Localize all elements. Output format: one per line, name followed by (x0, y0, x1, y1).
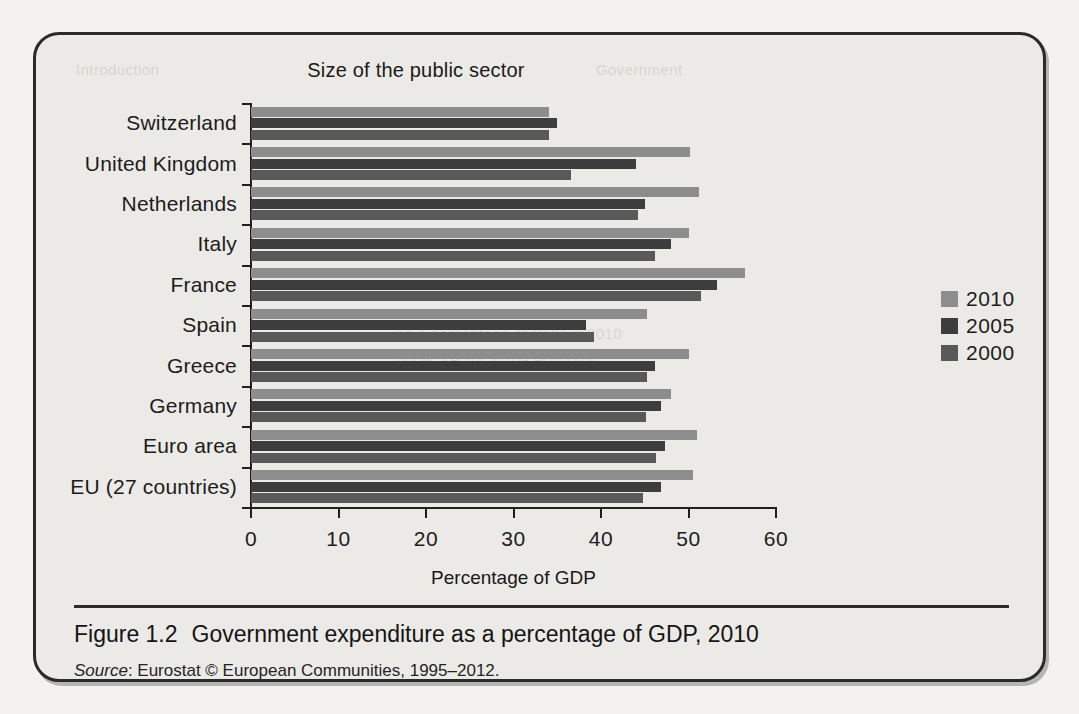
bar-group: Greece (251, 345, 776, 385)
x-tick (425, 508, 427, 518)
y-category-label: Spain (182, 313, 237, 337)
y-tick (242, 507, 251, 509)
y-tick (242, 143, 251, 145)
plot-region: 0102030405060 SwitzerlandUnited KingdomN… (251, 103, 776, 507)
figure-caption-label: Figure 1.2 (74, 621, 178, 647)
bar-2000 (251, 412, 646, 422)
bar-group: Euro area (251, 426, 776, 466)
bar-2010 (251, 187, 699, 197)
bar-2005 (251, 280, 717, 290)
legend-item: 2000 (941, 341, 1015, 365)
y-tick (242, 103, 251, 105)
y-tick (242, 386, 251, 388)
bar-2000 (251, 170, 571, 180)
bar-2010 (251, 228, 689, 238)
figure-source-label: Source (74, 661, 128, 680)
legend-item: 2010 (941, 287, 1015, 311)
bar-group: France (251, 265, 776, 305)
y-category-label: Netherlands (122, 192, 237, 216)
x-tick-label: 60 (764, 527, 788, 551)
legend-label: 2000 (966, 341, 1015, 365)
bar-group: United Kingdom (251, 143, 776, 183)
x-tick (338, 508, 340, 518)
legend-swatch-icon (941, 291, 958, 307)
bar-2005 (251, 482, 661, 492)
bar-2000 (251, 251, 655, 261)
y-category-label: France (170, 273, 237, 297)
bar-2005 (251, 441, 665, 451)
chart-area: Size of the public sector 0102030405060 … (36, 35, 1043, 595)
bar-2010 (251, 107, 549, 117)
bar-group: Switzerland (251, 103, 776, 143)
bar-2010 (251, 430, 697, 440)
chart-title: Size of the public sector (36, 59, 796, 82)
x-tick-label: 50 (676, 527, 700, 551)
x-tick (775, 508, 777, 518)
legend-swatch-icon (941, 345, 958, 361)
y-category-label: EU (27 countries) (70, 475, 237, 499)
bar-group: EU (27 countries) (251, 467, 776, 507)
y-category-label: United Kingdom (85, 152, 237, 176)
bar-group: Germany (251, 386, 776, 426)
bar-2005 (251, 159, 636, 169)
bar-2000 (251, 210, 638, 220)
x-tick-label: 30 (501, 527, 525, 551)
bar-2005 (251, 361, 655, 371)
bar-2010 (251, 309, 647, 319)
y-category-label: Greece (167, 354, 237, 378)
figure-caption: Figure 1.2Government expenditure as a pe… (74, 621, 1014, 648)
bar-2000 (251, 372, 647, 382)
bar-group: Netherlands (251, 184, 776, 224)
caption-divider (74, 605, 1009, 608)
x-tick (513, 508, 515, 518)
bar-group: Italy (251, 224, 776, 264)
legend-swatch-icon (941, 318, 958, 334)
legend-label: 2010 (966, 287, 1015, 311)
bar-2005 (251, 320, 586, 330)
legend-item: 2005 (941, 314, 1015, 338)
x-tick-label: 10 (326, 527, 350, 551)
bar-2000 (251, 332, 594, 342)
bar-2010 (251, 147, 690, 157)
bar-2000 (251, 493, 643, 503)
x-tick (688, 508, 690, 518)
figure-caption-text: Government expenditure as a percentage o… (192, 621, 759, 647)
y-tick (242, 305, 251, 307)
figure-source: Source: Eurostat © European Communities,… (74, 661, 500, 681)
x-tick-label: 40 (589, 527, 613, 551)
bar-2005 (251, 401, 661, 411)
bar-2000 (251, 453, 656, 463)
legend-label: 2005 (966, 314, 1015, 338)
y-category-label: Germany (149, 394, 237, 418)
bar-2010 (251, 470, 693, 480)
y-tick (242, 467, 251, 469)
bar-2005 (251, 199, 645, 209)
y-tick (242, 345, 251, 347)
bar-2005 (251, 118, 557, 128)
bar-2010 (251, 349, 689, 359)
y-category-label: Italy (197, 232, 237, 256)
x-tick-label: 20 (414, 527, 438, 551)
y-tick (242, 426, 251, 428)
x-axis-title: Percentage of GDP (251, 567, 776, 589)
x-tick (600, 508, 602, 518)
legend: 201020052000 (941, 287, 1015, 368)
y-tick (242, 265, 251, 267)
y-tick (242, 184, 251, 186)
figure-source-text: : Eurostat © European Communities, 1995–… (128, 661, 500, 680)
y-category-label: Switzerland (126, 111, 237, 135)
x-tick (250, 508, 252, 518)
bar-2005 (251, 239, 671, 249)
bar-2010 (251, 268, 745, 278)
bar-2000 (251, 130, 549, 140)
y-category-label: Euro area (143, 434, 237, 458)
y-tick (242, 224, 251, 226)
x-tick-label: 0 (245, 527, 257, 551)
figure-plate: Introduction Government as a percentage … (33, 32, 1046, 682)
bar-group: Spain (251, 305, 776, 345)
bar-2000 (251, 291, 701, 301)
bar-2010 (251, 389, 671, 399)
